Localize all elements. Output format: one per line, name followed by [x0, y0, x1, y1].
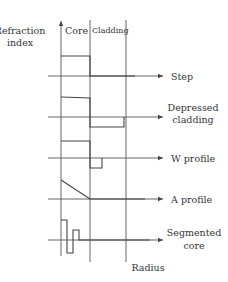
w-label: W profile: [171, 153, 216, 164]
y-axis-label-line2: index: [7, 37, 34, 48]
profile-depressed-cladding: Depressed cladding: [48, 97, 218, 127]
segmented-curve: [61, 220, 150, 253]
w-curve: [61, 141, 102, 168]
fiber-index-profiles-diagram: Refraction index Core Cladding Step Depr…: [0, 0, 228, 282]
profile-step: Step: [48, 56, 193, 82]
y-axis-label-line1: Refraction: [0, 25, 45, 36]
segmented-label-line1: Segmented: [167, 227, 221, 238]
step-label: Step: [171, 71, 193, 82]
profile-a: A profile: [48, 180, 213, 205]
depressed-label-line1: Depressed: [168, 102, 219, 113]
step-curve: [61, 56, 135, 76]
core-label: Core: [65, 25, 89, 36]
depressed-label-line2: cladding: [172, 114, 213, 125]
x-axis-label: Radius: [131, 262, 164, 273]
cladding-label: Cladding: [92, 26, 129, 35]
segmented-label-line2: core: [183, 240, 205, 251]
a-curve: [61, 180, 145, 199]
a-label: A profile: [170, 194, 213, 205]
profile-w: W profile: [48, 141, 216, 168]
profile-segmented-core: Segmented core: [48, 220, 221, 253]
depressed-curve: [61, 97, 124, 127]
